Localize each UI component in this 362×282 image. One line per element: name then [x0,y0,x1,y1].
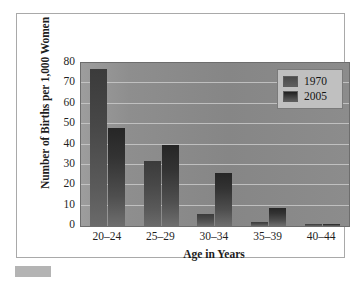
bar-group [81,63,135,226]
chart-figure-frame: Number of Births per 1,000 Women 1970 20… [16,13,345,258]
x-tick-label: 25–29 [134,230,188,242]
chart-legend: 1970 2005 [277,69,343,109]
y-tick-label: 30 [49,157,75,169]
x-tick-label: 20–24 [80,230,134,242]
bar-1970-30-34 [197,214,214,226]
bar-2005-25-29 [162,145,179,227]
bar-1970-20-24 [90,69,107,226]
figure-footer-mark [15,266,51,277]
bar-group [135,63,189,226]
y-tick-label: 0 [49,218,75,230]
x-tick-label: 40–44 [294,230,348,242]
plot-area: 1970 2005 [80,62,350,227]
legend-label-1970: 1970 [304,76,327,88]
x-tick-label: 35–39 [241,230,295,242]
bar-2005-40-44 [323,224,340,226]
y-tick-label: 40 [49,137,75,149]
y-tick-label: 80 [49,55,75,67]
x-tick-label: 30–34 [187,230,241,242]
y-tick-label: 10 [49,198,75,210]
legend-item-1970: 1970 [283,74,337,89]
x-axis-title: Age in Years [80,248,348,260]
bar-1970-40-44 [305,224,322,226]
legend-item-2005: 2005 [283,89,337,104]
legend-swatch-1970 [283,76,298,87]
y-tick-label: 70 [49,75,75,87]
y-tick-label: 60 [49,96,75,108]
bar-2005-35-39 [269,208,286,226]
bar-1970-35-39 [251,222,268,226]
legend-swatch-2005 [283,91,298,102]
bar-1970-25-29 [144,161,161,226]
y-tick-label: 50 [49,116,75,128]
bar-2005-20-24 [108,128,125,226]
bar-2005-30-34 [215,173,232,226]
legend-label-2005: 2005 [304,91,327,103]
bar-group [188,63,242,226]
y-tick-label: 20 [49,177,75,189]
